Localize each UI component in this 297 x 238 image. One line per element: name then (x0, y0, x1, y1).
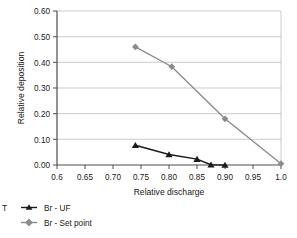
x-axis-ticks (57, 165, 281, 169)
legend-label-br-set-point: Br - Set point (44, 219, 93, 228)
legend-item-br-set-point[interactable]: Br - Set point (21, 219, 93, 228)
chart-legend: Br - UF Br - Set point (21, 204, 93, 228)
chart-figure: 0.60 0.50 0.40 0.30 0.20 0.10 0.00 0.6 0… (0, 0, 297, 238)
x-tick-label-0.65: 0.65 (77, 173, 93, 182)
x-tick-label-0.6: 0.6 (51, 173, 63, 182)
y-axis-tick-labels: 0.60 0.50 0.40 0.30 0.20 0.10 0.00 (34, 7, 50, 170)
legend-item-br-uf[interactable]: Br - UF (21, 204, 70, 213)
x-tick-label-0.95: 0.95 (245, 173, 261, 182)
y-axis-title: Relative deposition (16, 51, 26, 124)
x-axis-title: Relative discharge (134, 187, 205, 197)
legend-label-br-uf: Br - UF (44, 204, 70, 213)
x-tick-label-0.85: 0.85 (189, 173, 205, 182)
x-tick-label-0.90: 0.90 (217, 173, 233, 182)
x-tick-label-1.0: 1.0 (275, 173, 287, 182)
y-tick-label-0.30: 0.30 (34, 84, 50, 93)
x-tick-label-0.70: 0.70 (105, 173, 121, 182)
x-tick-label-0.75: 0.75 (133, 173, 149, 182)
y-tick-label-0.10: 0.10 (34, 136, 50, 145)
diamond-icon (25, 219, 33, 227)
y-tick-label-0.20: 0.20 (34, 110, 50, 119)
chart-canvas: 0.60 0.50 0.40 0.30 0.20 0.10 0.00 0.6 0… (0, 0, 297, 238)
y-tick-label-0.60: 0.60 (34, 7, 50, 16)
x-axis-tick-labels: 0.6 0.65 0.70 0.75 0.80 0.85 0.90 0.95 1… (51, 173, 287, 182)
y-tick-label-0.40: 0.40 (34, 59, 50, 68)
x-tick-label-0.80: 0.80 (161, 173, 177, 182)
cropped-fragment-label: T (2, 203, 8, 213)
y-tick-label-0.00: 0.00 (34, 161, 50, 170)
y-tick-label-0.50: 0.50 (34, 33, 50, 42)
